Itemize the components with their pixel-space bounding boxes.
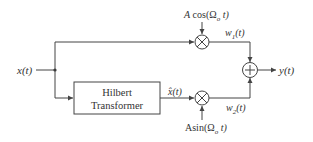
hilbert-label-line2: Transformer: [91, 100, 144, 111]
w1-label: w1(t): [225, 27, 245, 41]
hilbert-output-label: x̂(t): [167, 86, 183, 98]
w2-label: w2(t): [226, 102, 246, 116]
output-label: y(t): [278, 64, 295, 77]
w1-line: [209, 42, 250, 62]
multiplier-top: [195, 35, 209, 49]
block-diagram: x(t) Hilbert Transformer x̂(t) A cos(Ωo …: [0, 0, 313, 142]
adder: [243, 63, 258, 78]
upper-branch-line: [55, 42, 194, 70]
input-label: x(t): [16, 64, 33, 77]
carrier-sin-label: Asin(Ωo t): [185, 122, 227, 136]
carrier-cos-label: A cos(Ωo t): [183, 9, 229, 23]
lower-branch-line: [55, 70, 73, 98]
hilbert-transformer-block: Hilbert Transformer: [74, 82, 160, 114]
w2-line: [209, 78, 250, 98]
multiplier-bottom: [195, 91, 209, 105]
hilbert-label-line1: Hilbert: [102, 87, 132, 98]
